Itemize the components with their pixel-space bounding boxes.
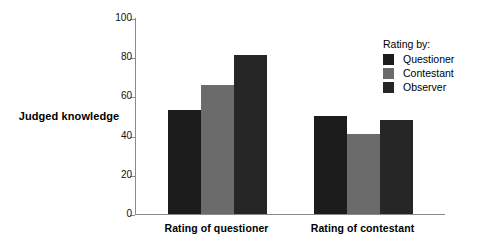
x-axis-group-label: Rating of questioner <box>137 222 297 234</box>
bar <box>314 116 347 214</box>
legend-label: Contestant <box>403 68 454 79</box>
legend-swatch <box>383 68 394 79</box>
bar <box>168 110 201 214</box>
bar-group <box>168 18 267 214</box>
legend-item: Contestant <box>383 68 454 79</box>
y-tick-label: 0 <box>126 208 132 219</box>
x-axis-line <box>135 214 445 215</box>
legend-item: Observer <box>383 82 454 93</box>
legend-label: Questioner <box>403 54 454 65</box>
legend-item: Questioner <box>383 54 454 65</box>
legend-label: Observer <box>403 82 446 93</box>
legend-swatch <box>383 82 394 93</box>
legend-swatch <box>383 54 394 65</box>
y-tick-label: 80 <box>121 51 132 62</box>
bar <box>234 55 267 214</box>
bar <box>380 120 413 214</box>
bar <box>347 134 380 214</box>
legend: Rating by: QuestionerContestantObserver <box>383 38 454 96</box>
y-axis-title: Judged knowledge <box>14 110 124 122</box>
bar-chart-figure: Judged knowledge 020406080100 Rating of … <box>0 0 500 249</box>
y-tick-label: 60 <box>121 90 132 101</box>
legend-title: Rating by: <box>383 38 454 50</box>
bar <box>201 85 234 214</box>
y-tick-label: 20 <box>121 169 132 180</box>
y-tick-label: 100 <box>115 12 132 23</box>
y-tick-label: 40 <box>121 130 132 141</box>
x-axis-group-label: Rating of contestant <box>283 222 443 234</box>
legend-entries: QuestionerContestantObserver <box>383 54 454 93</box>
